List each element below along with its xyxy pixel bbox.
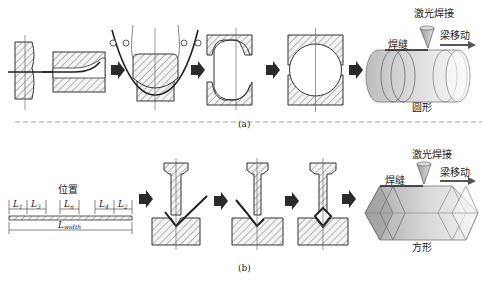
weld-seam-label: 焊缝 bbox=[388, 38, 408, 50]
process-arrow-icon bbox=[139, 190, 153, 208]
process-arrow-icon bbox=[349, 61, 363, 79]
svg-text:L3: L3 bbox=[30, 199, 41, 210]
process-arrow-icon bbox=[214, 192, 228, 210]
round-shape-label: 圆形 bbox=[412, 102, 432, 113]
forming-process-diagram: 激光焊接 梁移动 焊缝 圆形 (a) 位置 L1 bbox=[0, 0, 493, 282]
step-v-bending-1 bbox=[152, 158, 207, 250]
part-b-square-tube-forming: 位置 L1 L3 Ln L4 L2 Lwidth bbox=[9, 148, 478, 253]
part-a-round-tube-forming: 激光焊接 梁移动 焊缝 圆形 bbox=[8, 7, 476, 113]
weld-seam-label: 焊缝 bbox=[385, 174, 405, 186]
step-blank-with-bend-positions: 位置 L1 L3 Ln L4 L2 Lwidth bbox=[9, 183, 132, 234]
process-arrow-icon bbox=[342, 190, 356, 208]
step-v-bending-2 bbox=[232, 158, 283, 250]
position-label: 位置 bbox=[58, 183, 78, 195]
laser-weld-label: 激光焊接 bbox=[412, 148, 452, 160]
step-o-forming-closed bbox=[288, 28, 343, 112]
width-dimension-label: Lwidth bbox=[57, 220, 81, 230]
laser-weld-label: 激光焊接 bbox=[414, 7, 454, 19]
beam-move-label: 梁移动 bbox=[440, 166, 470, 178]
svg-text:L4: L4 bbox=[98, 199, 109, 210]
process-arrow-icon bbox=[266, 61, 280, 79]
step-o-forming-open bbox=[207, 28, 252, 110]
step-final-bend-closed bbox=[298, 158, 348, 250]
caption-a: (a) bbox=[238, 119, 250, 129]
process-arrow-icon bbox=[285, 192, 299, 210]
svg-text:Ln: Ln bbox=[63, 199, 74, 210]
beam-move-arrow-icon bbox=[440, 177, 476, 185]
laser-nozzle-icon bbox=[417, 164, 431, 184]
square-shape-label: 方形 bbox=[412, 241, 432, 253]
step-edge-bending bbox=[42, 52, 105, 92]
beam-move-arrow-icon bbox=[440, 41, 476, 49]
svg-text:L2: L2 bbox=[117, 199, 128, 210]
caption-b: (b) bbox=[238, 263, 251, 273]
beam-move-label: 梁移动 bbox=[440, 29, 470, 41]
step-u-forming bbox=[110, 25, 201, 110]
process-arrow-icon bbox=[191, 61, 205, 79]
svg-text:L1: L1 bbox=[12, 199, 23, 210]
laser-nozzle-icon bbox=[420, 28, 434, 48]
